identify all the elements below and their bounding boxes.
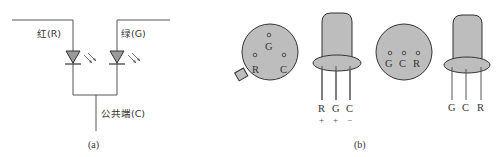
pin-label: R xyxy=(252,64,259,75)
caption-b: (b) xyxy=(354,139,366,151)
polarity-label: − xyxy=(347,115,352,125)
bicolor-led-diagram: 红(R) 绿(G) 公共端(C) (a) G R C R G xyxy=(0,0,502,157)
package1-bottom-view: G R C xyxy=(235,24,298,81)
pin-label: C xyxy=(346,103,353,114)
panel-b-packages: G R C R G C + + − G C xyxy=(235,13,490,151)
pin-label: C xyxy=(399,58,406,69)
key-tab-icon xyxy=(235,68,248,81)
common-label: 公共端(C) xyxy=(101,108,145,119)
green-led-icon xyxy=(109,51,140,64)
pin-label: R xyxy=(477,102,484,113)
package2-side-view: G C R xyxy=(444,15,490,113)
panel-a-schematic: 红(R) 绿(G) 公共端(C) (a) xyxy=(12,20,170,151)
red-led-icon xyxy=(65,51,96,64)
pin-label: G xyxy=(385,58,393,69)
pin-label: G xyxy=(332,103,340,114)
pin-label: C xyxy=(462,102,469,113)
package1-side-view: R G C + + − xyxy=(313,13,361,125)
polarity-label: + xyxy=(319,115,324,125)
green-label: 绿(G) xyxy=(121,28,146,39)
red-label: 红(R) xyxy=(37,28,61,39)
pin-label: R xyxy=(318,103,325,114)
pin-label: C xyxy=(280,64,287,75)
package2-bottom-view: G C R xyxy=(376,24,432,80)
pin-label: R xyxy=(413,58,420,69)
pin-label: G xyxy=(265,41,273,52)
polarity-label: + xyxy=(333,115,338,125)
caption-a: (a) xyxy=(88,139,99,151)
pin-label: G xyxy=(448,102,456,113)
